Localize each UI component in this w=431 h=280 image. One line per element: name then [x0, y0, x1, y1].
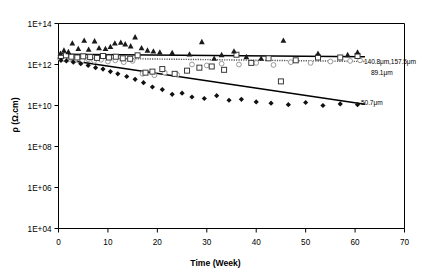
data-point-marker — [65, 49, 71, 54]
y-tick-label: 1E+06 — [28, 184, 52, 193]
y-tick-label: 1E+14 — [28, 20, 52, 29]
data-point-marker — [303, 100, 308, 105]
data-point-marker — [199, 39, 205, 44]
data-point-marker — [243, 54, 249, 59]
data-point-marker — [266, 56, 271, 61]
data-point-marker — [187, 51, 193, 56]
data-point-marker — [202, 96, 207, 101]
data-point-marker — [328, 59, 333, 64]
y-tick-label: 1E+12 — [28, 61, 52, 70]
data-point-marker — [214, 93, 219, 98]
data-point-marker — [160, 67, 165, 72]
data-point-marker — [61, 47, 67, 52]
resistivity-vs-time-chart: 1E+041E+061E+081E+101E+121E+14 010203040… — [0, 0, 431, 280]
data-point-marker — [113, 54, 118, 59]
x-tick-label: 40 — [252, 238, 262, 247]
y-tick-label: 1E+10 — [28, 102, 52, 111]
data-point-marker — [132, 34, 138, 39]
data-point-marker — [209, 64, 214, 69]
data-point-marker — [150, 84, 155, 89]
data-point-marker — [268, 101, 273, 106]
data-point-marker — [92, 38, 98, 43]
data-point-marker — [345, 52, 351, 57]
data-point-marker — [108, 69, 113, 74]
data-point-marker — [320, 103, 325, 108]
data-point-marker — [211, 55, 217, 60]
y-tick-label: 1E+08 — [28, 143, 52, 152]
data-point-marker — [145, 47, 151, 52]
data-point-marker — [355, 49, 361, 54]
data-point-marker — [157, 49, 163, 54]
x-axis-title: Time (Week) — [0, 258, 431, 268]
data-point-marker — [197, 65, 202, 70]
data-point-marker — [271, 63, 276, 68]
data-point-marker — [103, 46, 109, 51]
data-point-marker — [338, 101, 343, 106]
data-point-marker — [93, 65, 98, 70]
data-point-marker — [106, 55, 111, 60]
data-point-marker — [122, 41, 128, 46]
data-point-marker — [288, 60, 293, 65]
data-point-marker — [219, 52, 225, 57]
data-point-marker — [169, 50, 175, 55]
annotation-140-157: 140.8μm,157.5μm — [364, 58, 416, 65]
data-point-marker — [128, 43, 134, 48]
data-point-marker — [254, 99, 259, 104]
data-point-marker — [69, 40, 75, 45]
data-point-marker — [308, 60, 313, 65]
data-point-marker — [133, 77, 138, 82]
data-point-marker — [135, 53, 140, 58]
data-point-marker — [128, 56, 133, 61]
data-point-marker — [293, 58, 298, 63]
x-tick-label: 10 — [103, 238, 113, 247]
data-point-marker — [170, 92, 175, 97]
data-point-marker — [115, 71, 120, 76]
data-point-marker — [88, 55, 93, 60]
y-axis-title: ρ (Ω.cm) — [10, 60, 20, 170]
data-point-marker — [281, 37, 287, 42]
data-point-marker — [190, 62, 195, 67]
data-point-marker — [249, 60, 254, 65]
trend-lines — [59, 54, 365, 104]
data-point-marker — [185, 68, 190, 73]
data-point-marker — [226, 98, 231, 103]
data-point-marker — [348, 58, 353, 63]
data-point-marker — [286, 102, 291, 107]
data-point-marker — [338, 55, 343, 60]
x-axis-tick-labels: 010203040506070 — [56, 238, 409, 247]
data-point-marker — [254, 60, 259, 65]
data-point-marker — [141, 80, 146, 85]
data-point-marker — [150, 69, 155, 74]
data-point-marker — [222, 67, 227, 72]
x-tick-label: 50 — [301, 238, 311, 247]
data-point-marker — [160, 87, 165, 92]
data-point-marker — [81, 37, 87, 42]
figure-container: 1E+041E+061E+081E+101E+121E+14 010203040… — [0, 0, 431, 280]
data-point-marker — [75, 46, 81, 51]
data-point-marker — [143, 70, 148, 75]
data-point-marker — [120, 56, 125, 61]
data-point-marker — [95, 55, 100, 60]
data-point-marker — [231, 48, 237, 53]
data-point-marker — [315, 50, 321, 55]
data-point-marker — [96, 45, 102, 50]
data-point-marker — [108, 44, 114, 49]
y-tick-label: 1E+04 — [28, 225, 52, 234]
x-tick-label: 20 — [153, 238, 163, 247]
data-point-marker — [189, 94, 194, 99]
data-point-marker — [69, 54, 74, 59]
data-point-marker — [100, 66, 105, 71]
data-point-marker — [112, 40, 118, 45]
data-point-marker — [204, 63, 209, 68]
data-point-marker — [139, 45, 145, 50]
x-tick-label: 30 — [202, 238, 212, 247]
y-axis-tick-labels: 1E+041E+061E+081E+101E+121E+14 — [28, 20, 52, 234]
data-point-marker — [219, 61, 224, 66]
x-tick-label: 70 — [400, 238, 410, 247]
data-point-marker — [172, 71, 177, 76]
x-tick-label: 60 — [351, 238, 361, 247]
data-point-marker — [118, 39, 124, 44]
data-point-marker — [100, 53, 105, 58]
data-point-marker — [86, 46, 92, 51]
data-point-marker — [179, 91, 184, 96]
